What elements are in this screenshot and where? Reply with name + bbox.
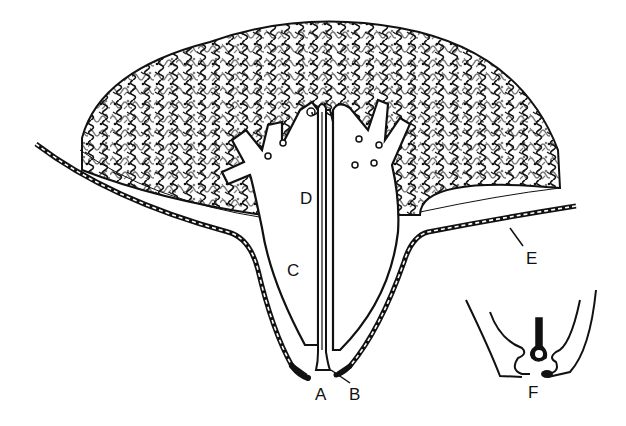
- label-b-sphincter: B: [349, 386, 360, 403]
- label-a-streak-canal: A: [315, 386, 326, 403]
- label-f-inset: F: [528, 384, 538, 401]
- teat-anatomy-diagram: [0, 0, 626, 426]
- label-e-skin: E: [526, 250, 537, 267]
- diagram-canvas: A B C D E F: [0, 0, 626, 426]
- inset-detail: [466, 290, 596, 378]
- label-c-teat-cistern: C: [287, 262, 299, 279]
- label-d-gland-cistern: D: [300, 190, 312, 207]
- gland-cistern-right: [333, 100, 410, 350]
